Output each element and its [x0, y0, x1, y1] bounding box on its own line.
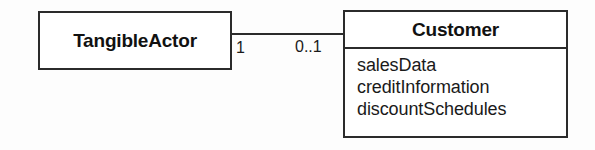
multiplicity-label-target: 0..1 — [295, 39, 322, 55]
class-header-customer: Customer — [345, 12, 566, 49]
class-name-customer: Customer — [412, 20, 499, 39]
class-attributes-customer: salesData creditInformation discountSche… — [345, 49, 566, 136]
association-line[interactable] — [232, 33, 343, 35]
uml-class-diagram: TangibleActor 1 0..1 Customer salesData … — [0, 0, 595, 150]
multiplicity-label-source: 1 — [236, 40, 245, 56]
class-box-customer[interactable]: Customer salesData creditInformation dis… — [343, 10, 568, 138]
attribute-row: salesData — [357, 54, 566, 76]
attribute-row: discountSchedules — [357, 98, 566, 120]
class-box-tangibleactor[interactable]: TangibleActor — [38, 11, 232, 70]
attribute-row: creditInformation — [357, 76, 566, 98]
class-name-tangibleactor: TangibleActor — [73, 31, 197, 50]
